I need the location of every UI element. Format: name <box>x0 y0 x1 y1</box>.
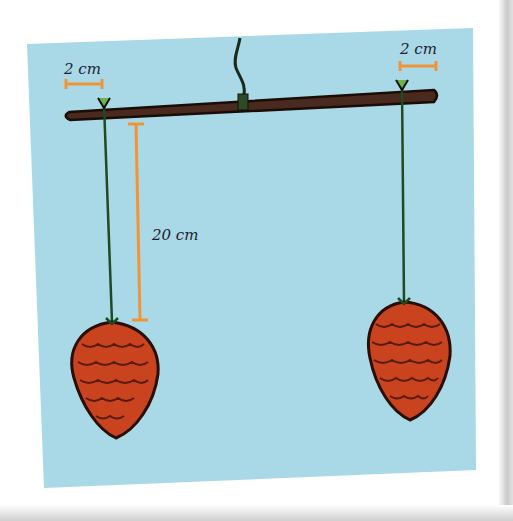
string-length-label: 20 cm <box>152 226 198 244</box>
center-binding <box>238 94 248 110</box>
right-offset-label: 2 cm <box>400 40 437 58</box>
left-offset-label: 2 cm <box>64 60 101 78</box>
mobile-diagram <box>0 0 513 521</box>
